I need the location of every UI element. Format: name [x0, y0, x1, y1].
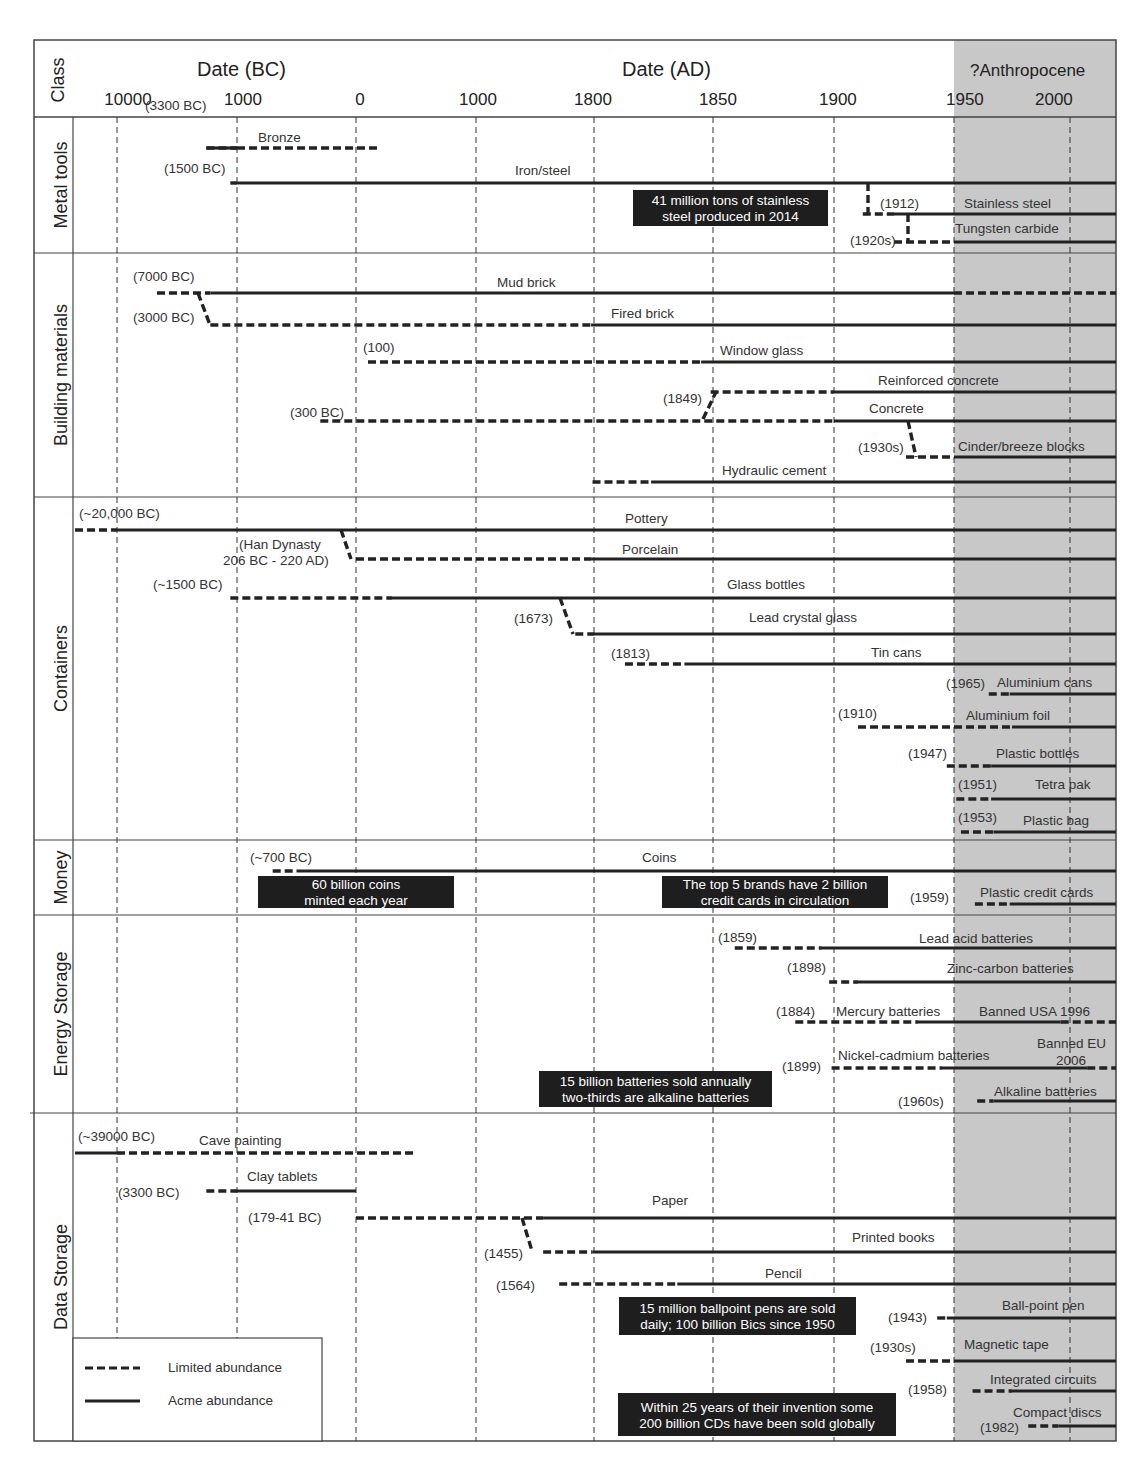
date-label: (7000 BC)	[133, 269, 195, 284]
date-label: (~1500 BC)	[153, 577, 222, 592]
class-label: Data Storage	[51, 1224, 71, 1330]
annotation-label: 2006	[1056, 1053, 1086, 1068]
timeline-chart: ClassDate (BC)Date (AD)?Anthropocene1000…	[0, 0, 1146, 1469]
x-tick-label: 1900	[819, 90, 857, 109]
item-label: Alkaline batteries	[994, 1084, 1097, 1099]
item-label: Window glass	[720, 343, 804, 358]
fact-note-line: The top 5 brands have 2 billion	[683, 877, 868, 892]
item-label: Mercury batteries	[836, 1004, 941, 1019]
date-label: (1564)	[496, 1278, 535, 1293]
date-label: (~20,000 BC)	[79, 506, 160, 521]
x-tick-label: 2000	[1035, 90, 1073, 109]
item-label: Tetra pak	[1035, 777, 1091, 792]
date-label: (1673)	[514, 611, 553, 626]
item-label: Nickel-cadmium batteries	[838, 1048, 990, 1063]
date-label: (1959)	[910, 890, 949, 905]
item-label: Lead acid batteries	[919, 931, 1033, 946]
item-label: Integrated circuits	[990, 1372, 1097, 1387]
fact-note-line: 60 billion coins	[312, 877, 401, 892]
item-label: Plastic bag	[1023, 813, 1089, 828]
date-label: (1910)	[838, 706, 877, 721]
item-label: Mud brick	[497, 275, 556, 290]
item-label: Plastic bottles	[996, 746, 1080, 761]
ad-axis-label: Date (AD)	[622, 58, 711, 80]
fact-note-line: 15 billion batteries sold annually	[560, 1074, 752, 1089]
date-label: (179-41 BC)	[248, 1210, 322, 1225]
date-label: (1912)	[880, 196, 919, 211]
transition-connector	[703, 392, 716, 419]
class-label: Metal tools	[51, 141, 71, 228]
class-label: Money	[51, 850, 71, 904]
fact-note-line: 200 billion CDs have been sold globally	[639, 1416, 875, 1431]
date-label: (3300 BC)	[118, 1185, 180, 1200]
fact-note-line: two-thirds are alkaline batteries	[562, 1090, 749, 1105]
date-label: (Han Dynasty	[239, 537, 321, 552]
legend	[73, 1338, 322, 1441]
x-tick-label: 1800	[574, 90, 612, 109]
date-label: (1943)	[888, 1310, 927, 1325]
class-header: Class	[48, 57, 68, 102]
item-label: Paper	[652, 1193, 689, 1208]
item-label: Aluminium foil	[966, 708, 1050, 723]
item-label: Coins	[642, 850, 677, 865]
x-tick-label: 1000	[224, 90, 262, 109]
x-tick-label: 1950	[946, 90, 984, 109]
date-label: (~39000 BC)	[78, 1129, 155, 1144]
transition-connector	[522, 1218, 532, 1251]
date-label: (1500 BC)	[164, 161, 226, 176]
transition-connector	[341, 530, 351, 559]
item-label: Concrete	[869, 401, 924, 416]
date-label: (1884)	[776, 1004, 815, 1019]
date-label: (1947)	[908, 746, 947, 761]
item-label: Zinc-carbon batteries	[947, 961, 1074, 976]
item-label: Pottery	[625, 511, 668, 526]
item-label: Magnetic tape	[964, 1337, 1049, 1352]
fact-note-line: Within 25 years of their invention some	[641, 1400, 874, 1415]
item-label: Hydraulic cement	[722, 463, 827, 478]
x-tick-label: 0	[355, 90, 364, 109]
anthropocene-label: ?Anthropocene	[970, 61, 1085, 80]
item-label: Ball-point pen	[1002, 1298, 1085, 1313]
item-label: Tin cans	[871, 645, 922, 660]
item-label: Glass bottles	[727, 577, 805, 592]
x-tick-label: 1000	[459, 90, 497, 109]
item-label: Cave painting	[199, 1133, 282, 1148]
legend-label: Acme abundance	[168, 1393, 273, 1408]
date-label: (1960s)	[898, 1094, 944, 1109]
date-label: (1953)	[958, 810, 997, 825]
anthropocene-shading	[954, 40, 1116, 1441]
transition-connector	[198, 293, 210, 325]
date-label: (1930s)	[870, 1340, 916, 1355]
date-label: (1849)	[663, 391, 702, 406]
class-label: Energy Storage	[51, 951, 71, 1076]
item-label: Aluminium cans	[997, 675, 1093, 690]
legend-box	[73, 1338, 322, 1441]
item-label: Printed books	[852, 1230, 935, 1245]
date-label: (1982)	[980, 1420, 1019, 1435]
item-label: Fired brick	[611, 306, 674, 321]
fact-note-line: 41 million tons of stainless	[652, 193, 810, 208]
date-label: (1899)	[782, 1059, 821, 1074]
item-label: Compact discs	[1013, 1405, 1102, 1420]
item-label: Iron/steel	[515, 163, 571, 178]
date-label: (1951)	[958, 777, 997, 792]
date-label: (1898)	[787, 960, 826, 975]
item-label: Cinder/breeze blocks	[958, 439, 1085, 454]
date-label: (1965)	[946, 676, 985, 691]
date-label: (1859)	[718, 930, 757, 945]
bc-axis-label: Date (BC)	[197, 58, 286, 80]
annotation-label: Banned USA 1996	[979, 1004, 1090, 1019]
date-label: 206 BC - 220 AD)	[223, 553, 329, 568]
item-label: Porcelain	[622, 542, 678, 557]
fact-note-line: 15 million ballpoint pens are sold	[640, 1301, 836, 1316]
class-label: Building materials	[51, 304, 71, 446]
item-label: Tungsten carbide	[955, 221, 1059, 236]
date-label: (3000 BC)	[133, 310, 195, 325]
date-label: (3300 BC)	[145, 98, 207, 113]
transition-connector	[908, 421, 916, 457]
annotation-label: Banned EU	[1037, 1036, 1106, 1051]
fact-note-line: credit cards in circulation	[701, 893, 850, 908]
date-label: (300 BC)	[290, 405, 344, 420]
x-tick-label: 1850	[699, 90, 737, 109]
item-label: Pencil	[765, 1266, 802, 1281]
